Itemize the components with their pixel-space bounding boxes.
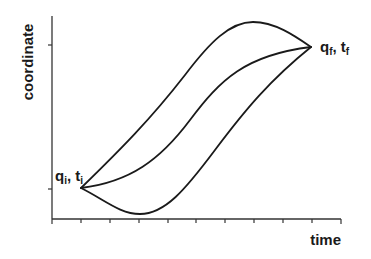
middle-trajectory	[81, 47, 311, 188]
x-axis-label: time	[310, 231, 341, 248]
start-point-label: qi, ti	[55, 167, 83, 186]
y-axis-label: coordinate	[19, 24, 36, 101]
trajectory-diagram: coordinate time qi, ti qf, tf	[0, 0, 371, 259]
lower-trajectory	[81, 47, 311, 214]
end-point-label: qf, tf	[320, 38, 350, 57]
upper-trajectory	[81, 22, 311, 188]
x-ticks	[52, 219, 341, 224]
